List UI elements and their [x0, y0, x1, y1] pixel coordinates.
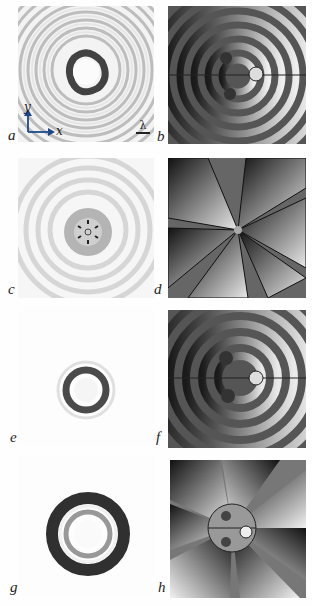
axis-x-label: x [56, 124, 63, 138]
intensity-small-ring-image [18, 306, 154, 446]
phase-rings-vortices-image [168, 310, 306, 448]
panel-label-e: e [10, 430, 17, 445]
panel-f-phase [168, 310, 306, 448]
panel-label-g: g [10, 580, 18, 595]
panel-b-phase [168, 6, 306, 144]
phase-map-image [168, 6, 306, 144]
panel-label-h: h [158, 580, 166, 595]
phase-spiral-arms-image [168, 158, 306, 298]
panel-c-intensity [18, 158, 154, 298]
panel-g-intensity [18, 456, 154, 596]
panel-label-d: d [154, 282, 162, 297]
panel-label-b: b [157, 129, 165, 144]
scale-bar: λ [136, 120, 150, 134]
panel-e-intensity [18, 306, 154, 446]
panel-label-f: f [156, 430, 160, 445]
panel-d-phase [168, 158, 306, 298]
intensity-vortex-cluster-image [18, 158, 154, 298]
intensity-double-ring-image [18, 456, 154, 596]
phase-sectors-image [170, 460, 306, 598]
axis-y-label: y [24, 100, 31, 114]
panel-label-a: a [8, 128, 16, 143]
axes-inset: y x [24, 106, 64, 140]
panel-h-phase [170, 460, 306, 598]
scale-bar-label: λ [136, 120, 150, 131]
scale-bar-line [136, 132, 150, 134]
panel-label-c: c [8, 282, 15, 297]
